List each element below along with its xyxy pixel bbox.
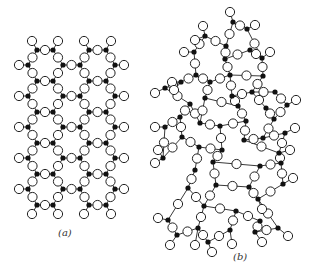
cation-atom-icon: [77, 124, 82, 129]
oxygen-atom-icon: [93, 107, 102, 116]
cation-atom-icon: [50, 202, 55, 207]
oxygen-atom-icon: [153, 145, 162, 154]
oxygen-atom-icon: [28, 84, 37, 93]
oxygen-atom-icon: [80, 146, 89, 155]
cation-atom-icon: [227, 72, 232, 77]
oxygen-atom-icon: [159, 138, 168, 147]
oxygen-atom-icon: [266, 187, 275, 196]
cation-atom-icon: [210, 159, 215, 164]
oxygen-atom-icon: [226, 81, 235, 90]
oxygen-atom-icon: [240, 126, 249, 135]
cation-atom-icon: [235, 103, 240, 108]
cation-atom-icon: [271, 116, 276, 121]
oxygen-atom-icon: [28, 115, 37, 124]
cation-atom-icon: [86, 202, 91, 207]
oxygen-atom-icon: [228, 119, 237, 128]
oxygen-atom-icon: [119, 122, 128, 131]
cation-atom-icon: [103, 109, 108, 114]
oxygen-atom-icon: [27, 36, 36, 45]
cation-atom-icon: [160, 155, 165, 160]
oxygen-atom-icon: [53, 161, 62, 170]
oxygen-atom-icon: [106, 130, 115, 139]
cation-atom-icon: [275, 225, 280, 230]
oxygen-atom-icon: [283, 231, 292, 240]
oxygen-atom-icon: [53, 209, 62, 218]
oxygen-atom-icon: [215, 74, 224, 83]
cation-atom-icon: [112, 93, 117, 98]
oxygen-atom-icon: [80, 53, 89, 62]
oxygen-atom-icon: [258, 62, 267, 71]
cation-atom-icon: [103, 47, 108, 52]
oxygen-atom-icon: [242, 71, 251, 80]
cation-atom-icon: [34, 171, 39, 176]
oxygen-atom-icon: [180, 106, 189, 115]
oxygen-atom-icon: [250, 20, 259, 29]
cation-atom-icon: [25, 186, 30, 191]
oxygen-atom-icon: [198, 74, 207, 83]
cation-atom-icon: [197, 120, 202, 125]
oxygen-atom-icon: [257, 142, 266, 151]
cation-atom-icon: [207, 79, 212, 84]
oxygen-atom-icon: [14, 184, 23, 193]
oxygen-atom-icon: [80, 99, 89, 108]
oxygen-atom-icon: [235, 21, 244, 30]
oxygen-atom-icon: [213, 151, 222, 160]
oxygen-atom-icon: [40, 45, 49, 54]
oxygen-atom-icon: [227, 239, 236, 248]
cation-atom-icon: [229, 93, 234, 98]
oxygen-atom-icon: [277, 169, 286, 178]
cation-atom-icon: [233, 208, 238, 213]
cation-atom-icon: [252, 229, 257, 234]
panel-a-crystalline-network: [14, 36, 128, 218]
oxygen-atom-icon: [53, 68, 62, 77]
cation-atom-icon: [162, 124, 167, 129]
cation-atom-icon: [50, 171, 55, 176]
oxygen-atom-icon: [106, 36, 115, 45]
oxygen-atom-icon: [80, 68, 89, 77]
cation-atom-icon: [34, 47, 39, 52]
cation-atom-icon: [50, 47, 55, 52]
cation-atom-icon: [50, 78, 55, 83]
oxygen-atom-icon: [106, 53, 115, 62]
oxygen-atom-icon: [210, 169, 219, 178]
oxygen-atom-icon: [253, 79, 262, 88]
cation-atom-icon: [263, 105, 268, 110]
cation-atom-icon: [202, 95, 207, 100]
cation-atom-icon: [103, 78, 108, 83]
cation-atom-icon: [86, 78, 91, 83]
oxygen-atom-icon: [28, 99, 37, 108]
cation-atom-icon: [50, 109, 55, 114]
cation-atom-icon: [25, 93, 30, 98]
oxygen-atom-icon: [243, 211, 252, 220]
cation-atom-icon: [249, 89, 254, 94]
oxygen-atom-icon: [184, 74, 193, 83]
oxygen-atom-icon: [119, 153, 128, 162]
glass-network-figure: [0, 0, 314, 268]
oxygen-atom-icon: [198, 230, 207, 239]
oxygen-atom-icon: [28, 68, 37, 77]
oxygen-atom-icon: [254, 95, 263, 104]
oxygen-atom-icon: [196, 212, 205, 221]
oxygen-atom-icon: [93, 138, 102, 147]
oxygen-atom-icon: [192, 154, 201, 163]
cation-atom-icon: [103, 140, 108, 145]
oxygen-atom-icon: [187, 174, 196, 183]
oxygen-atom-icon: [276, 94, 285, 103]
oxygen-atom-icon: [79, 36, 88, 45]
oxygen-atom-icon: [53, 36, 62, 45]
oxygen-atom-icon: [183, 227, 192, 236]
oxygen-atom-icon: [80, 130, 89, 139]
oxygen-atom-icon: [119, 60, 128, 69]
oxygen-atom-icon: [291, 95, 300, 104]
oxygen-atom-icon: [276, 107, 285, 116]
oxygen-atom-icon: [221, 48, 230, 57]
cation-atom-icon: [196, 144, 201, 149]
cation-atom-icon: [222, 56, 227, 61]
oxygen-atom-icon: [106, 146, 115, 155]
oxygen-atom-icon: [67, 153, 76, 162]
cation-atom-icon: [241, 137, 246, 142]
cation-atom-icon: [219, 147, 224, 152]
oxygen-atom-icon: [27, 209, 36, 218]
panel-b-random-network: [150, 7, 300, 256]
panel-a-label: (a): [58, 227, 72, 238]
